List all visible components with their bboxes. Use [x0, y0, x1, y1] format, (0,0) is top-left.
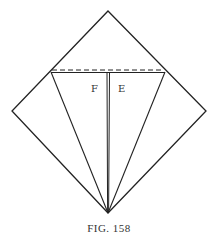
center-line-right	[109, 73, 110, 214]
center-line-left	[107, 73, 108, 214]
left-inner-fold	[51, 72, 108, 213]
caption-prefix: FIG.	[87, 222, 109, 234]
label-f: F	[91, 83, 98, 94]
caption-number: 158	[113, 222, 131, 234]
label-e: E	[118, 83, 125, 94]
fold-diagram: F E	[0, 0, 218, 242]
right-inner-fold	[108, 72, 165, 213]
figure-caption: FIG. 158	[0, 222, 218, 234]
